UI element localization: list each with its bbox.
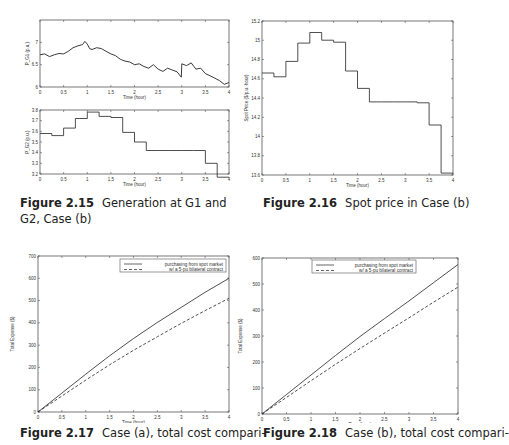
x-axis-label: Time (hour) [122,420,146,423]
x-tick-label: 1 [308,178,311,183]
x-tick-label: 3 [180,90,183,95]
chart-pg2: 00.511.522.533.543.23.33.43.53.63.73.8Ti… [0,100,236,188]
x-tick-label: 3.5 [202,177,209,182]
x-tick-label: 3.5 [430,417,437,422]
series-line [40,41,229,84]
y-tick-label: 13.6 [251,173,260,178]
y-tick-label: 15.2 [251,19,260,24]
x-tick-label: 4 [452,178,455,183]
y-tick-label: 3.2 [32,172,39,177]
y-tick-label: 3.3 [32,161,39,166]
caption-text: Case (b), total cost compari- [345,426,509,440]
legend-label: purchasing from spot market [165,262,224,267]
x-tick-label: 3 [408,417,411,422]
caption-figure-2-18: Figure 2.18Case (b), total cost compari- [263,425,478,441]
y-tick-label: 14.4 [251,96,260,101]
x-axis-label: Time (hour) [346,183,370,188]
x-tick-label: 3 [180,177,183,182]
x-tick-label: 1.5 [108,177,115,182]
plot-frame [40,20,229,87]
y-tick-label: 200 [28,365,36,370]
figure-2-16: 00.511.522.533.5413.613.81414.214.414.61… [240,0,476,190]
series-line [38,278,229,412]
y-tick-label: 300 [28,343,36,348]
x-tick-label: 2 [356,178,359,183]
caption-label: Figure 2.17 [20,426,94,440]
x-tick-label: 1 [84,415,87,420]
series-line [40,112,229,177]
x-tick-label: 1 [86,90,89,95]
y-axis-label: Total Expense ($) [238,318,243,354]
y-tick-label: 3.7 [32,118,39,123]
series-line [262,287,458,414]
y-tick-label: 600 [28,276,36,281]
x-tick-label: 1.5 [332,417,339,422]
y-tick-label: 3.6 [32,129,39,134]
y-axis-label: P_G2 (p.u.) [25,130,30,154]
x-tick-label: 1.5 [108,90,115,95]
y-axis-label: P_G1 (p.u.) [25,41,30,65]
x-tick-label: 1 [310,417,313,422]
series-line [262,265,458,415]
x-tick-label: 4 [457,417,460,422]
chart-spot-price: 00.511.522.533.5413.613.81414.214.414.61… [240,0,476,190]
y-tick-label: 14 [255,134,261,139]
x-tick-label: 0 [261,178,264,183]
x-tick-label: 3.5 [426,178,433,183]
y-tick-label: 7 [35,40,38,45]
x-tick-label: 0 [37,415,40,420]
x-tick-label: 0 [39,90,42,95]
y-tick-label: 3.4 [32,150,39,155]
y-tick-label: 600 [252,256,260,261]
y-tick-label: 6.5 [32,62,39,67]
caption-label: Figure 2.18 [263,426,337,440]
chart-total-cost-case-a: 00.511.522.533.540100200300400500600700T… [0,245,236,423]
y-tick-label: 14.2 [251,115,260,120]
x-tick-label: 4 [228,415,231,420]
x-tick-label: 2.5 [155,177,162,182]
caption-label: Figure 2.15 [20,196,94,210]
x-tick-label: 3.5 [202,415,209,420]
x-tick-label: 2 [133,177,136,182]
x-tick-label: 2 [359,417,362,422]
y-tick-label: 15 [255,38,261,43]
x-tick-label: 0 [39,177,42,182]
legend-label: w/ a 5-pu bilateral contract [169,267,224,272]
figure-2-15-top: 00.511.522.533.5466.57Time (hour)P_G1 (p… [0,0,236,100]
chart-total-cost-case-b: 00.511.522.533.540100200300400500600Time… [236,245,476,423]
y-tick-label: 3.8 [32,108,39,113]
plot-frame [38,256,229,412]
x-tick-label: 4 [228,90,231,95]
x-tick-label: 2 [132,415,135,420]
y-axis-label: Spot Price ($/p.u.-hour) [244,74,249,121]
y-tick-label: 3.5 [32,140,39,145]
x-tick-label: 2 [133,90,136,95]
y-tick-label: 500 [28,298,36,303]
y-tick-label: 14.6 [251,76,260,81]
figure-2-15-bottom: 00.511.522.533.543.23.33.43.53.63.73.8Ti… [0,100,236,188]
x-tick-label: 0.5 [60,90,67,95]
y-tick-label: 14.8 [251,57,260,62]
y-tick-label: 100 [28,387,36,392]
y-tick-label: 400 [28,320,36,325]
x-tick-label: 3.5 [202,90,209,95]
series-line [262,33,453,174]
x-tick-label: 2.5 [378,178,385,183]
y-tick-label: 700 [28,254,36,259]
x-axis-label: Time (hour) [348,422,372,423]
y-tick-label: 300 [252,334,260,339]
caption-label: Figure 2.16 [263,196,337,210]
y-tick-label: 400 [252,308,260,313]
y-tick-label: 200 [252,360,260,365]
x-tick-label: 1.5 [330,178,337,183]
caption-text: Spot price in Case (b) [345,196,469,210]
x-axis-label: Time (hour) [123,182,147,187]
caption-figure-2-15: Figure 2.15Generation at G1 and G2, Case… [20,195,235,227]
x-tick-label: 0 [261,417,264,422]
caption-figure-2-17: Figure 2.17Case (a), total cost compari- [20,425,240,441]
x-tick-label: 2.5 [154,415,161,420]
x-tick-label: 0.5 [283,417,290,422]
x-tick-label: 0.5 [59,415,66,420]
caption-text: Case (a), total cost compari- [102,426,266,440]
y-tick-label: 500 [252,282,260,287]
